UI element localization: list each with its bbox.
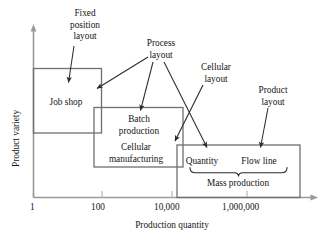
- y-axis-label: Product variety: [11, 110, 21, 167]
- x-axis-label: Production quantity: [135, 220, 209, 232]
- x-tick-label-10000: 10,000: [154, 202, 180, 212]
- brace-label-mass-production: Mass production: [207, 178, 269, 190]
- box-label-cellular-line2: manufacturing: [109, 154, 163, 166]
- callout-fixed-position-layout-line1: Fixed: [74, 8, 95, 20]
- box-label-cellular-line1: Cellular: [121, 142, 151, 154]
- arrow-cellular-layout: [175, 85, 203, 141]
- callout-fixed-position-layout-line3: layout: [73, 31, 96, 43]
- box-mass-production: [177, 145, 300, 198]
- box-label-batch-line2: production: [119, 126, 159, 138]
- arrow-process-layout-to-quantity: [164, 62, 207, 148]
- box-label-batch-line1: Batch: [128, 114, 150, 126]
- figure-canvas: Product variety Production quantity 1 10…: [0, 0, 326, 239]
- arrow-process-layout-to-job-shop: [97, 57, 148, 89]
- box-label-flow-line: Flow line: [241, 156, 276, 168]
- x-axis-ticks: [34, 191, 248, 198]
- callout-process-layout-line2: layout: [149, 50, 172, 62]
- x-tick-label-1: 1: [30, 202, 35, 212]
- mass-production-brace: [190, 168, 287, 177]
- arrow-product-layout: [261, 108, 269, 148]
- callout-product-layout-line2: layout: [261, 97, 284, 109]
- callout-cellular-layout-line2: layout: [204, 74, 227, 86]
- callout-arrows: [69, 46, 269, 148]
- x-tick-label-1000000: 1,000,000: [222, 202, 259, 212]
- arrow-fixed-position-layout: [69, 46, 75, 83]
- box-label-quantity: Quantity: [186, 156, 219, 168]
- callout-cellular-layout-line1: Cellular: [201, 62, 231, 74]
- callout-fixed-position-layout-line2: position: [70, 20, 100, 32]
- callout-product-layout-line1: Product: [259, 85, 288, 97]
- callout-process-layout-line1: Process: [147, 38, 175, 50]
- arrow-process-layout-to-batch: [141, 62, 154, 111]
- box-label-job-shop: Job shop: [50, 97, 83, 109]
- x-tick-label-100: 100: [91, 202, 105, 212]
